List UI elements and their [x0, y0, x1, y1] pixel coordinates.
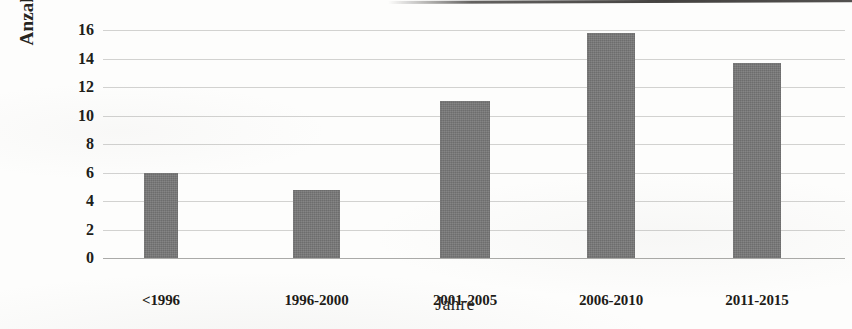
gridline [103, 30, 845, 31]
y-axis-tick-label: 16 [78, 21, 94, 39]
bar [440, 101, 490, 258]
plot-area: 0246810121416<19961996-20002001-20052006… [103, 30, 845, 258]
bar [144, 173, 178, 259]
bar-chart-figure: Anzahl Veröffentlichungen 0246810121416<… [0, 0, 852, 329]
gridline [103, 59, 845, 60]
bar [733, 63, 781, 258]
y-axis-tick-label: 4 [86, 192, 94, 210]
bar [587, 33, 635, 258]
y-axis-tick-label: 2 [86, 221, 94, 239]
axis-baseline [103, 258, 845, 259]
bar [293, 190, 340, 258]
x-axis-title: Jahre [0, 294, 852, 315]
scan-page-edge-artifact [388, 0, 852, 4]
y-axis-title: Anzahl Veröffentlichungen [14, 0, 40, 50]
y-axis-tick-label: 10 [78, 107, 94, 125]
y-axis-tick-label: 6 [86, 164, 94, 182]
y-axis-tick-label: 14 [78, 50, 94, 68]
y-axis-tick-label: 0 [86, 249, 94, 267]
y-axis-tick-label: 8 [86, 135, 94, 153]
y-axis-tick-label: 12 [78, 78, 94, 96]
